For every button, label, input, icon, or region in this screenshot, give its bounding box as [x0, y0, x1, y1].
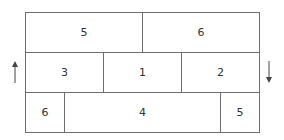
cell-row2-c: 2 [181, 52, 260, 93]
cell-label: 5 [81, 26, 88, 39]
cell-row2-a: 3 [25, 52, 104, 93]
cell-row3-b: 4 [64, 92, 221, 133]
cell-label: 4 [139, 106, 146, 119]
cell-label: 3 [61, 66, 68, 79]
cell-label: 6 [198, 26, 205, 39]
cell-label: 6 [42, 106, 49, 119]
arrow-up-icon [11, 60, 19, 84]
cell-row1-b: 6 [142, 12, 260, 53]
cell-label: 2 [217, 66, 224, 79]
cell-row3-c: 5 [220, 92, 260, 133]
cell-label: 5 [237, 106, 244, 119]
cell-row2-b: 1 [103, 52, 182, 93]
cell-row1-a: 5 [25, 12, 143, 53]
cell-row3-a: 6 [25, 92, 65, 133]
cell-label: 1 [139, 66, 146, 79]
arrow-down-icon [265, 60, 273, 84]
